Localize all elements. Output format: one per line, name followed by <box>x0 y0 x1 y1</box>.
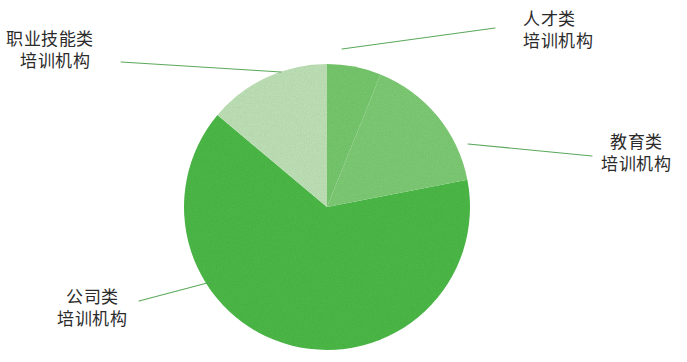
pie-label-education-line1: 教育类 <box>601 131 671 153</box>
leader-line-vocational <box>121 62 281 72</box>
pie-label-talent-line2: 培训机构 <box>523 30 593 52</box>
pie-label-talent: 人才类 培训机构 <box>523 8 593 53</box>
pie-label-company: 公司类 培训机构 <box>57 286 127 331</box>
pie-label-education: 教育类 培训机构 <box>601 131 671 176</box>
pie-label-talent-line1: 人才类 <box>523 8 593 30</box>
pie-label-vocational: 职业技能类 培训机构 <box>6 28 94 73</box>
pie-slice-group <box>184 64 470 350</box>
pie-label-company-line2: 培训机构 <box>57 308 127 330</box>
leader-line-talent <box>342 28 495 49</box>
pie-label-vocational-line1: 职业技能类 <box>6 28 94 50</box>
pie-label-company-line1: 公司类 <box>57 286 127 308</box>
pie-label-education-line2: 培训机构 <box>601 153 671 175</box>
leader-line-company <box>139 282 211 301</box>
pie-chart: 职业技能类 培训机构 人才类 培训机构 教育类 培训机构 公司类 培训机构 <box>0 0 687 362</box>
leader-line-education <box>468 144 592 156</box>
pie-label-vocational-line2: 培训机构 <box>6 50 94 72</box>
